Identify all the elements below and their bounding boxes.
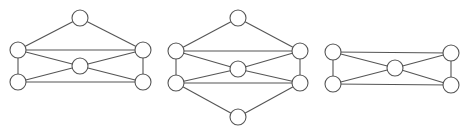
edge-right-lower-center xyxy=(238,69,300,83)
node-left-upper xyxy=(168,43,184,59)
edge-right-lower-bottom xyxy=(238,83,300,117)
graph-diagram-canvas xyxy=(0,0,475,133)
graph-3 xyxy=(325,44,459,93)
edge-right-upper-center xyxy=(238,51,300,69)
edge-left-lower-center xyxy=(176,69,238,83)
node-left-lower xyxy=(10,74,26,90)
node-center xyxy=(72,58,88,74)
node-top xyxy=(230,10,246,26)
edge-left-lower-center xyxy=(333,68,395,84)
edge-left-upper-center xyxy=(176,51,238,69)
node-right-upper xyxy=(443,45,459,61)
edge-top-left-upper xyxy=(176,18,238,51)
edge-left-upper-center xyxy=(333,52,395,68)
edge-left-lower-right-lower xyxy=(333,84,451,85)
node-right-lower xyxy=(135,74,151,90)
edge-left-lower-center xyxy=(18,66,80,82)
node-right-upper xyxy=(292,43,308,59)
edge-left-upper-right-upper xyxy=(333,52,451,53)
edge-left-lower-bottom xyxy=(176,83,238,117)
node-right-upper xyxy=(135,42,151,58)
edge-top-right-upper xyxy=(238,18,300,51)
node-top xyxy=(72,10,88,26)
edge-right-lower-center xyxy=(395,68,451,85)
edge-top-right-upper xyxy=(80,18,143,50)
node-left-lower xyxy=(325,76,341,92)
node-left-lower xyxy=(168,75,184,91)
graph-1 xyxy=(10,10,151,90)
edge-right-upper-center xyxy=(80,50,143,66)
graph-2 xyxy=(168,10,308,125)
node-left-upper xyxy=(10,42,26,58)
edge-left-upper-center xyxy=(18,50,80,66)
edge-right-upper-center xyxy=(395,53,451,68)
node-right-lower xyxy=(292,75,308,91)
edge-right-lower-center xyxy=(80,66,143,82)
node-center xyxy=(387,60,403,76)
node-center xyxy=(230,61,246,77)
node-bottom xyxy=(230,109,246,125)
edge-top-left-upper xyxy=(18,18,80,50)
node-right-lower xyxy=(443,77,459,93)
node-left-upper xyxy=(325,44,341,60)
